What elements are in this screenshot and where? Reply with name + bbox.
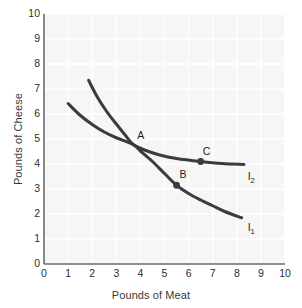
indifference-curve-chart: 012345678910 012345678910 ABC I1I2 Pound… bbox=[0, 0, 302, 308]
curve-label-I1: I1 bbox=[248, 221, 255, 236]
x-tick-label-4: 4 bbox=[130, 267, 150, 279]
y-axis-title: Pounds of Cheese bbox=[12, 93, 24, 185]
x-tick-label-10: 10 bbox=[275, 267, 295, 279]
x-tick-label-9: 9 bbox=[251, 267, 271, 279]
x-tick-label-1: 1 bbox=[58, 267, 78, 279]
point-label-A: A bbox=[137, 129, 144, 141]
y-axis-title-wrapper: Pounds of Cheese bbox=[8, 69, 26, 209]
y-tick-label-8: 8 bbox=[20, 57, 40, 69]
curve-label-subscript-I1: 1 bbox=[251, 227, 255, 236]
y-tick-label-10: 10 bbox=[20, 7, 40, 19]
point-marker-B bbox=[173, 182, 180, 189]
chart-canvas bbox=[0, 0, 302, 308]
curve-label-subscript-I2: 2 bbox=[251, 176, 255, 185]
y-tick-label-9: 9 bbox=[20, 32, 40, 44]
x-tick-label-6: 6 bbox=[179, 267, 199, 279]
x-tick-label-2: 2 bbox=[82, 267, 102, 279]
point-label-C: C bbox=[203, 145, 211, 157]
x-axis-title: Pounds of Meat bbox=[0, 289, 302, 301]
x-tick-label-5: 5 bbox=[155, 267, 175, 279]
y-tick-label-0: 0 bbox=[20, 257, 40, 269]
curve-label-I2: I2 bbox=[248, 170, 255, 185]
point-label-B: B bbox=[180, 168, 187, 180]
x-tick-label-7: 7 bbox=[203, 267, 223, 279]
x-tick-label-3: 3 bbox=[106, 267, 126, 279]
y-tick-label-1: 1 bbox=[20, 232, 40, 244]
point-marker-C bbox=[197, 158, 204, 165]
x-tick-label-8: 8 bbox=[227, 267, 247, 279]
